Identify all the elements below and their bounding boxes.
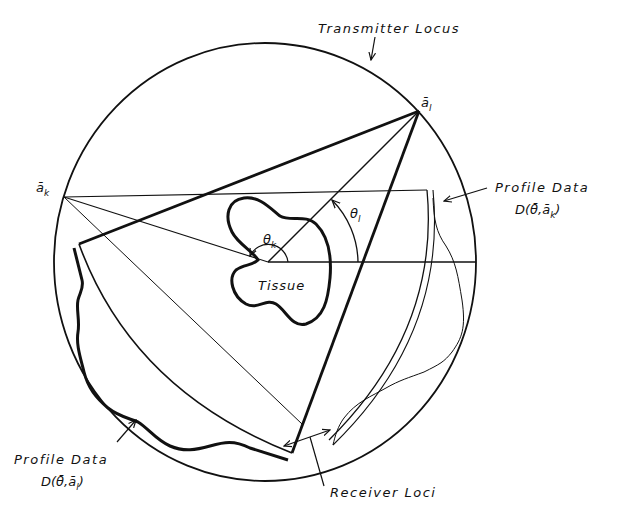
diagram-canvas: Transmitter Locus āl āk Profile Data D(θ… bbox=[0, 0, 634, 514]
profile-k-formula: D(θ̄,āk) bbox=[515, 202, 560, 220]
point-ak-label: āk bbox=[36, 180, 50, 198]
profile-k-arrow bbox=[444, 188, 487, 201]
tissue-label: Tissue bbox=[258, 278, 305, 293]
receiver-loci-pointer bbox=[310, 437, 324, 486]
profile-k-title: Profile Data bbox=[495, 180, 589, 195]
point-al-label: āl bbox=[421, 95, 432, 113]
receiver-loci-arrow bbox=[284, 430, 330, 446]
receiver-loci-label: Receiver Loci bbox=[330, 485, 436, 500]
profile-l-title: Profile Data bbox=[14, 452, 108, 467]
profile-curve-al bbox=[74, 248, 288, 460]
profile-l-formula: D(θ̄,āl) bbox=[41, 474, 84, 492]
theta-k-label: θk bbox=[263, 232, 277, 250]
fan-beam-al bbox=[79, 111, 419, 453]
theta-l-label: θl bbox=[350, 206, 361, 224]
profile-l-arrow bbox=[117, 420, 136, 442]
tissue-region bbox=[228, 198, 330, 325]
transmitter-locus-arrow bbox=[371, 37, 375, 60]
transmitter-locus-label: Transmitter Locus bbox=[318, 21, 460, 36]
profile-curve-ak bbox=[333, 198, 464, 445]
